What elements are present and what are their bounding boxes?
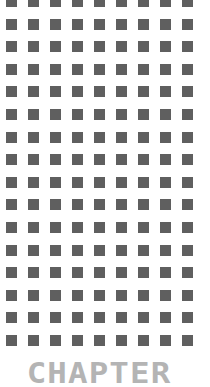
pattern-square [94, 19, 105, 30]
pattern-square [116, 267, 127, 278]
pattern-square [160, 290, 171, 301]
pattern-square [138, 132, 149, 143]
pattern-square [50, 41, 61, 52]
pattern-square [182, 154, 193, 165]
pattern-square [116, 222, 127, 233]
pattern-square [72, 109, 83, 120]
pattern-square [72, 86, 83, 97]
pattern-square [182, 222, 193, 233]
pattern-square [160, 19, 171, 30]
pattern-square [94, 86, 105, 97]
pattern-square [28, 64, 39, 75]
pattern-square [160, 312, 171, 323]
pattern-square [160, 177, 171, 188]
pattern-square [182, 64, 193, 75]
pattern-square [72, 0, 83, 7]
pattern-square [182, 109, 193, 120]
pattern-square [28, 154, 39, 165]
pattern-square [28, 41, 39, 52]
pattern-square [182, 86, 193, 97]
pattern-square [94, 132, 105, 143]
pattern-square [94, 0, 105, 7]
pattern-square [94, 290, 105, 301]
pattern-square [116, 19, 127, 30]
pattern-square [160, 222, 171, 233]
pattern-square [50, 312, 61, 323]
pattern-square [72, 154, 83, 165]
pattern-square [28, 177, 39, 188]
pattern-square [116, 154, 127, 165]
pattern-square [28, 267, 39, 278]
chapter-heading: CHAPTER [0, 358, 210, 387]
pattern-square [28, 19, 39, 30]
pattern-square [6, 19, 17, 30]
pattern-square [6, 290, 17, 301]
pattern-square [72, 199, 83, 210]
pattern-square [138, 312, 149, 323]
pattern-square [182, 41, 193, 52]
pattern-square [28, 222, 39, 233]
pattern-square [182, 312, 193, 323]
pattern-square [94, 64, 105, 75]
pattern-square [6, 0, 17, 7]
pattern-square [94, 177, 105, 188]
pattern-square [138, 177, 149, 188]
pattern-square [116, 0, 127, 7]
pattern-square [6, 267, 17, 278]
pattern-square [50, 267, 61, 278]
pattern-square [94, 199, 105, 210]
pattern-square [138, 245, 149, 256]
pattern-square [160, 245, 171, 256]
pattern-square [6, 132, 17, 143]
pattern-square [116, 132, 127, 143]
pattern-square [182, 177, 193, 188]
pattern-square [72, 335, 83, 346]
pattern-square [116, 109, 127, 120]
pattern-square [6, 245, 17, 256]
pattern-square [138, 154, 149, 165]
pattern-square [6, 64, 17, 75]
pattern-square [138, 0, 149, 7]
pattern-square [138, 199, 149, 210]
pattern-square [72, 19, 83, 30]
pattern-square [138, 86, 149, 97]
pattern-square [116, 64, 127, 75]
pattern-square [182, 267, 193, 278]
pattern-square [28, 132, 39, 143]
pattern-square [72, 132, 83, 143]
pattern-square [94, 245, 105, 256]
pattern-square [116, 335, 127, 346]
pattern-square [182, 132, 193, 143]
pattern-square [138, 109, 149, 120]
pattern-square [138, 19, 149, 30]
pattern-square [182, 0, 193, 7]
pattern-square [50, 0, 61, 7]
pattern-square [28, 109, 39, 120]
pattern-square [138, 267, 149, 278]
pattern-square [138, 64, 149, 75]
pattern-square [160, 0, 171, 7]
pattern-square [94, 267, 105, 278]
pattern-square [160, 199, 171, 210]
pattern-square [50, 109, 61, 120]
pattern-square [6, 154, 17, 165]
pattern-square [28, 290, 39, 301]
pattern-square [160, 267, 171, 278]
pattern-square [72, 64, 83, 75]
pattern-square [116, 312, 127, 323]
pattern-square [160, 335, 171, 346]
pattern-square [6, 177, 17, 188]
pattern-square [182, 335, 193, 346]
pattern-square [116, 86, 127, 97]
pattern-square [116, 177, 127, 188]
pattern-square [6, 109, 17, 120]
pattern-square [160, 64, 171, 75]
pattern-square [50, 222, 61, 233]
pattern-square [28, 312, 39, 323]
pattern-square [94, 222, 105, 233]
pattern-square [160, 86, 171, 97]
pattern-square [50, 177, 61, 188]
pattern-square [28, 86, 39, 97]
pattern-square [50, 154, 61, 165]
pattern-square [160, 41, 171, 52]
